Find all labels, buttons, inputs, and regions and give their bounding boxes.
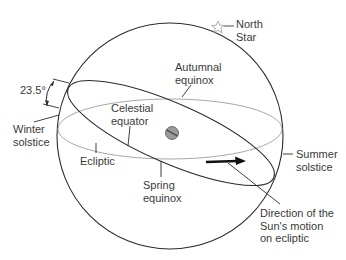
autumnal-equinox-label: Autumnal equinox (175, 61, 221, 86)
autumnal-equinox-leader (182, 85, 191, 97)
celestial-equator-leader (128, 126, 130, 146)
angle-label: 23.5° (20, 84, 46, 97)
winter-solstice-label: Winter solstice (13, 123, 50, 148)
spring-equinox-label: Spring equinox (143, 179, 182, 204)
north-star-icon (212, 21, 225, 33)
earth-globe (166, 127, 179, 140)
celestial-sphere-diagram: North Star Autumnal equinox 23.5° Celest… (0, 0, 346, 260)
sun-motion-label: Direction of the Sun's motion on eclipti… (260, 207, 334, 245)
celestial-equator-label: Celestial equator (111, 102, 153, 127)
summer-solstice-label: Summer solstice (296, 148, 338, 173)
winter-solstice-leader (34, 115, 59, 122)
ecliptic-label: Ecliptic (80, 155, 115, 168)
north-star-label: North Star (236, 18, 263, 43)
sun-direction-arrow (206, 157, 246, 166)
